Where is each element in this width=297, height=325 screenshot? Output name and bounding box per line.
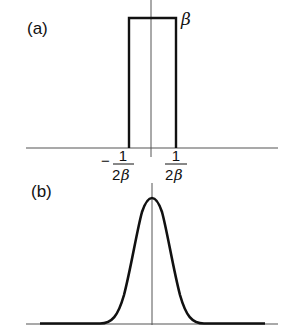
panel-a: (a) β − 1 2 β 1 2 β xyxy=(26,0,278,184)
tick-label-left: − 1 2 β xyxy=(101,147,134,184)
height-label-beta: β xyxy=(180,9,191,29)
denominator-two: 2 xyxy=(112,166,120,183)
denominator-two: 2 xyxy=(165,166,173,183)
panel-a-label: (a) xyxy=(27,19,48,38)
rect-pulse xyxy=(129,18,176,148)
denominator-beta: β xyxy=(173,166,183,184)
numerator: 1 xyxy=(119,147,127,164)
tick-label-right: 1 2 β xyxy=(165,147,187,184)
numerator: 1 xyxy=(172,147,180,164)
panel-b: (b) xyxy=(26,182,278,325)
panel-b-label: (b) xyxy=(31,182,52,201)
figure-canvas: (a) β − 1 2 β 1 2 β (b) xyxy=(0,0,297,325)
denominator-beta: β xyxy=(120,166,130,184)
minus-sign: − xyxy=(101,152,110,169)
